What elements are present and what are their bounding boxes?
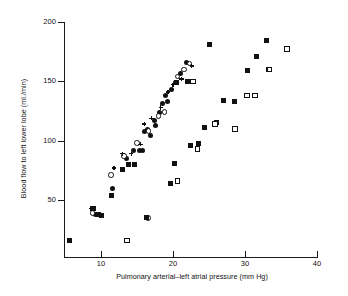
data-point-filled-square [188,143,193,148]
scatter-plot-area: 5010015020010203040 Pulmonary arterial–l… [0,0,348,296]
data-point-filled-square [196,141,201,146]
data-point-filled-square [207,42,212,47]
data-point-cross [190,64,194,68]
data-point-open-circle [162,109,168,115]
data-point-filled-circle [140,148,145,153]
data-point-open-square [124,238,130,244]
x-tick-label: 10 [86,259,116,268]
data-point-filled-square [185,79,190,84]
data-point-open-circle [90,210,96,216]
data-point-filled-square [99,213,104,218]
data-point-open-circle [156,113,162,119]
data-point-cross [138,142,142,146]
data-point-filled-square [168,181,173,186]
data-point-filled-square [172,161,177,166]
data-point-open-square [232,126,238,132]
x-tick-label: 30 [230,259,260,268]
data-point-filled-square [264,38,269,43]
y-tick [58,200,64,201]
data-point-filled-square [232,99,237,104]
data-point-filled-square [202,125,207,130]
y-tick [58,81,64,82]
x-tick-label: 40 [302,259,332,268]
data-point-open-square [244,93,250,99]
y-tick [58,141,64,142]
data-point-cross [166,90,170,94]
data-point-filled-circle [153,123,158,128]
data-point-filled-circle [148,133,153,138]
data-point-filled-square [221,98,226,103]
data-point-cross [159,105,163,109]
x-tick [245,251,246,257]
x-axis-title: Pulmonary arterial–left atrial pressure … [64,272,320,281]
x-tick [101,251,102,257]
y-tick-label: 200 [16,17,56,26]
y-axis-line [64,22,65,258]
data-point-open-square [212,121,218,127]
data-point-filled-square [245,68,250,73]
data-point-cross [129,152,133,156]
data-point-open-square [252,93,258,99]
data-point-filled-circle [165,99,170,104]
data-point-open-circle [181,67,187,73]
data-point-open-square [195,146,201,152]
data-point-filled-circle [110,186,115,191]
x-tick [173,251,174,257]
data-point-cross [142,122,146,126]
data-point-filled-square [109,193,114,198]
y-axis-title: Blood flow to left lower lobe (ml./min) [19,39,28,239]
y-tick [58,22,64,23]
data-point-open-square [284,46,290,52]
data-point-open-square [190,79,196,85]
data-point-filled-square [120,167,125,172]
data-point-cross [112,166,116,170]
data-point-filled-square [174,80,179,85]
data-point-filled-square [254,54,259,59]
chart-figure: 5010015020010203040 Pulmonary arterial–l… [0,0,348,296]
data-point-cross [120,152,124,156]
data-point-filled-square [126,162,131,167]
data-point-cross [179,77,183,81]
data-point-open-square [175,178,181,184]
data-point-cross [149,116,153,120]
data-point-filled-square [91,206,96,211]
data-point-open-circle [108,172,114,178]
data-point-filled-square [144,215,149,220]
data-point-open-square [267,67,273,73]
x-tick-label: 20 [158,259,188,268]
x-tick [317,251,318,257]
data-point-filled-square [132,162,137,167]
data-point-filled-square [67,238,72,243]
